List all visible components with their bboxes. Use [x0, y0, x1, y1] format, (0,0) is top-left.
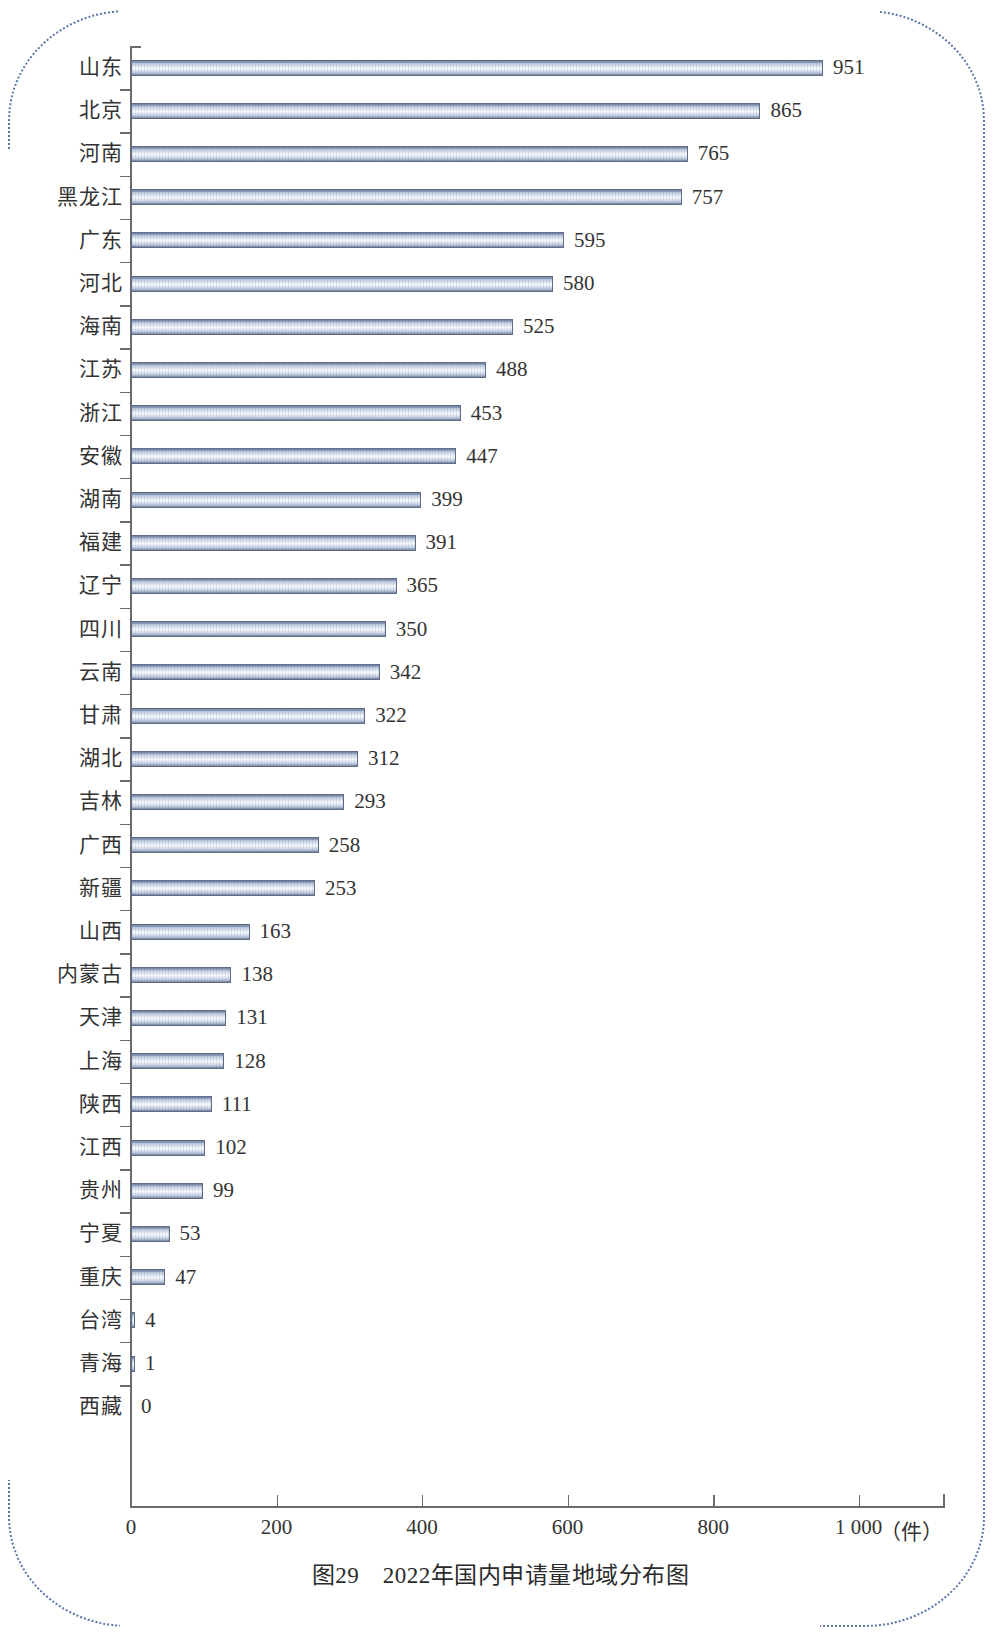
- category-label: 陕西: [8, 1083, 123, 1126]
- bar-row: 西藏0: [131, 1385, 823, 1428]
- bar-value-label: 53: [180, 1212, 201, 1255]
- domestic-application-regional-distribution-bar-chart: 山东951北京865河南765黑龙江757广东595河北580海南525江苏48…: [0, 0, 1001, 1647]
- bar: [131, 60, 823, 76]
- bar-value-label: 111: [222, 1083, 252, 1126]
- bar: [131, 924, 250, 940]
- category-label: 四川: [8, 608, 123, 651]
- bar: [131, 1226, 170, 1242]
- bar-row: 内蒙古138: [131, 953, 823, 996]
- bar-value-label: 322: [375, 694, 407, 737]
- bar: [131, 1140, 205, 1156]
- bar-row: 天津131: [131, 996, 823, 1039]
- x-axis-tick: [713, 1495, 714, 1507]
- bar-row: 浙江453: [131, 392, 823, 435]
- bar-row: 宁夏53: [131, 1212, 823, 1255]
- bar-value-label: 399: [431, 478, 463, 521]
- bar-value-label: 765: [698, 132, 730, 175]
- bar: [131, 880, 315, 896]
- bar-row: 河南765: [131, 132, 823, 175]
- x-axis-tick-label: 1 000: [835, 1515, 882, 1540]
- bar-value-label: 1: [145, 1342, 156, 1385]
- category-label: 广东: [8, 219, 123, 262]
- bar-row: 山西163: [131, 910, 823, 953]
- bar: [131, 794, 344, 810]
- x-axis-tick-label: 200: [261, 1515, 293, 1540]
- category-label: 甘肃: [8, 694, 123, 737]
- category-label: 贵州: [8, 1169, 123, 1212]
- bar: [131, 232, 564, 248]
- bar-value-label: 391: [426, 521, 458, 564]
- plot-area: 山东951北京865河南765黑龙江757广东595河北580海南525江苏48…: [131, 46, 823, 1507]
- category-label: 江苏: [8, 348, 123, 391]
- bar: [131, 405, 461, 421]
- category-label: 新疆: [8, 867, 123, 910]
- bar-row: 吉林293: [131, 780, 823, 823]
- bar-row: 贵州99: [131, 1169, 823, 1212]
- bar-row: 福建391: [131, 521, 823, 564]
- bar-row: 新疆253: [131, 867, 823, 910]
- bar-value-label: 757: [692, 176, 724, 219]
- bar: [131, 664, 380, 680]
- bar-value-label: 365: [407, 564, 439, 607]
- category-label: 河北: [8, 262, 123, 305]
- category-label: 江西: [8, 1126, 123, 1169]
- category-label: 宁夏: [8, 1212, 123, 1255]
- bar-row: 云南342: [131, 651, 823, 694]
- category-label: 浙江: [8, 392, 123, 435]
- bar-row: 四川350: [131, 608, 823, 651]
- category-label: 吉林: [8, 780, 123, 823]
- bar-row: 重庆47: [131, 1256, 823, 1299]
- bar-row: 江西102: [131, 1126, 823, 1169]
- bar-row: 山东951: [131, 46, 823, 89]
- bar: [131, 621, 386, 637]
- bar-value-label: 342: [390, 651, 422, 694]
- bar-value-label: 4: [145, 1299, 156, 1342]
- category-label: 海南: [8, 305, 123, 348]
- category-label: 山西: [8, 910, 123, 953]
- category-label: 西藏: [8, 1385, 123, 1428]
- bar-value-label: 128: [234, 1040, 266, 1083]
- bar-value-label: 350: [396, 608, 428, 651]
- bar-row: 广东595: [131, 219, 823, 262]
- bar: [131, 967, 231, 983]
- bar: [131, 578, 397, 594]
- bar: [131, 492, 421, 508]
- bar: [131, 276, 553, 292]
- bar: [131, 362, 486, 378]
- category-label: 湖北: [8, 737, 123, 780]
- bar-row: 青海1: [131, 1342, 823, 1385]
- bar: [131, 751, 358, 767]
- bar-row: 上海128: [131, 1040, 823, 1083]
- bar-value-label: 163: [260, 910, 292, 953]
- x-axis-tick-label: 0: [126, 1515, 137, 1540]
- category-label: 黑龙江: [8, 176, 123, 219]
- bar: [131, 146, 688, 162]
- x-axis-tick: [859, 1495, 860, 1507]
- bar-value-label: 138: [241, 953, 273, 996]
- bar-row: 台湾4: [131, 1299, 823, 1342]
- x-axis-tick-label: 400: [406, 1515, 438, 1540]
- category-label: 重庆: [8, 1256, 123, 1299]
- bar-row: 广西258: [131, 824, 823, 867]
- figure-caption: 图29 2022年国内申请量地域分布图: [0, 1556, 1001, 1590]
- bar-row: 陕西111: [131, 1083, 823, 1126]
- category-label: 上海: [8, 1040, 123, 1083]
- category-label: 安徽: [8, 435, 123, 478]
- bar-row: 湖南399: [131, 478, 823, 521]
- bar: [131, 535, 416, 551]
- category-label: 湖南: [8, 478, 123, 521]
- category-label: 台湾: [8, 1299, 123, 1342]
- category-label: 辽宁: [8, 564, 123, 607]
- category-label: 山东: [8, 46, 123, 89]
- bar: [131, 1053, 224, 1069]
- bar-value-label: 488: [496, 348, 528, 391]
- bar-row: 河北580: [131, 262, 823, 305]
- bar-value-label: 47: [175, 1256, 196, 1299]
- bar-row: 湖北312: [131, 737, 823, 780]
- bar: [131, 708, 365, 724]
- bar-value-label: 865: [770, 89, 802, 132]
- bar-row: 黑龙江757: [131, 176, 823, 219]
- bar: [131, 1269, 165, 1285]
- x-axis-tick: [277, 1495, 278, 1507]
- bar: [131, 189, 682, 205]
